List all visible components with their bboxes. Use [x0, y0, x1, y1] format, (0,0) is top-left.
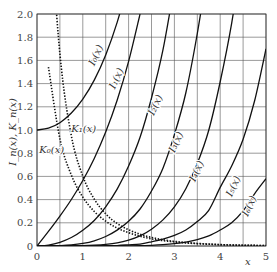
curve-labels: I₀(x)I₁(x)I₂(x)I₃(x)I₄(x)I₅(x)I₆(x)K₁(x)…: [38, 43, 258, 219]
x-tick-label: 0: [34, 251, 40, 262]
x-tick-label: 2: [125, 251, 131, 262]
x-tick-label: 5: [263, 251, 269, 262]
x-tick-label: 4: [217, 251, 223, 262]
label-Ix: I₄(x): [186, 159, 205, 184]
y-tick-label: 0.4: [17, 194, 33, 205]
axes: 01234500.20.40.60.81.01.21.41.61.82.0: [17, 9, 269, 263]
x-axis-label: x: [245, 256, 251, 267]
label-Ix: I₆(x): [239, 194, 258, 219]
label-Kx: K₀(x): [38, 144, 64, 155]
y-tick-label: 1.8: [17, 32, 33, 43]
y-tick-label: 0.6: [17, 171, 33, 182]
y-tick-label: 0: [27, 241, 33, 252]
y-tick-label: 1.2: [17, 101, 33, 112]
label-Ix: I₁(x): [106, 66, 125, 91]
x-tick-label: 3: [171, 251, 177, 262]
x-tick-label: 1: [80, 251, 86, 262]
label-Ix: I₃(x): [166, 130, 185, 155]
label-Ix: I₂(x): [145, 93, 164, 118]
label-Kx: K₁(x): [70, 123, 96, 134]
y-tick-label: 2.0: [17, 9, 33, 20]
y-tick-label: 1.4: [17, 78, 33, 89]
y-axis-label: I_n(x), K_n(x): [7, 98, 19, 167]
curve-k0(x): [48, 67, 266, 245]
y-tick-label: 1.0: [17, 125, 33, 136]
y-tick-label: 1.6: [17, 55, 33, 66]
bessel-chart: 01234500.20.40.60.81.01.21.41.61.82.0 I₀…: [0, 0, 277, 272]
y-tick-label: 0.2: [17, 217, 33, 228]
y-tick-label: 0.8: [17, 148, 33, 159]
